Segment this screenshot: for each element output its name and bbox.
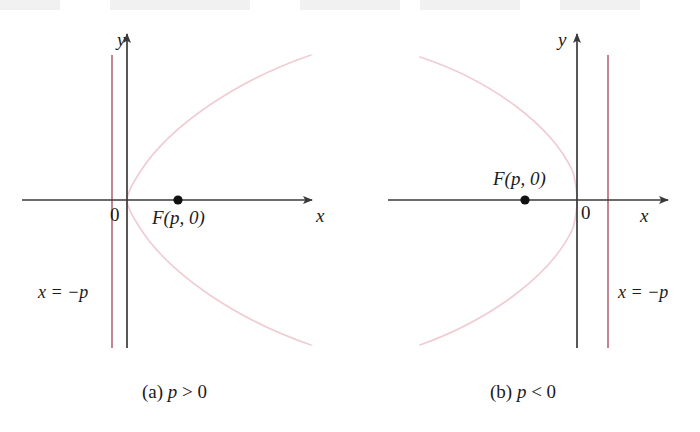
caption-b: (b) p < 0 [490,382,556,401]
parabola-figure [0,0,700,432]
focus-label-b: F(p, 0) [493,169,546,188]
caption-a: (a) p > 0 [142,382,207,401]
y-axis-label-a: y [117,30,125,49]
directrix-label-b: x = −p [618,283,668,301]
parabola-curve-b [420,57,577,345]
y-axis-label-b: y [558,30,566,49]
focus-label-a: F(p, 0) [152,208,205,227]
focus-point-a [173,195,182,204]
x-axis-label-a: x [316,206,324,225]
origin-label-b: 0 [581,203,591,222]
x-axis-label-b: x [640,206,648,225]
focus-point-b [520,195,529,204]
origin-label-a: 0 [110,205,120,224]
directrix-label-a: x = −p [38,283,88,301]
